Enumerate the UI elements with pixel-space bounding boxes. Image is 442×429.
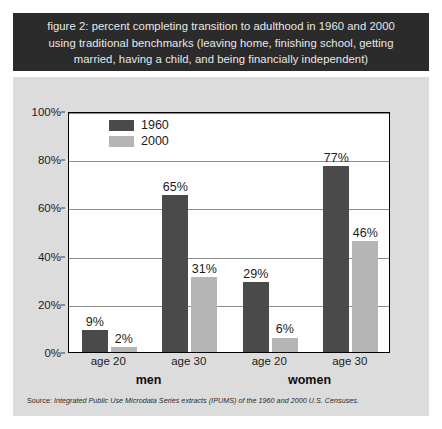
bar-value-label: 9% <box>86 316 104 329</box>
y-axis-tick-mark <box>61 304 65 305</box>
legend-label: 1960 <box>141 119 169 132</box>
source-text: Integrated Public Use Microdata Series e… <box>52 396 359 405</box>
bar-2000-1: 31% <box>191 277 217 352</box>
y-axis-tick-label: 100% <box>32 106 61 118</box>
legend-swatch-icon <box>109 136 134 147</box>
figure-title-banner: figure 2: percent completing transition … <box>13 13 429 71</box>
bar-value-label: 29% <box>243 268 268 281</box>
x-axis: age 20age 30age 20age 30menwomen <box>68 355 390 397</box>
x-axis-tick-label: age 30 <box>332 355 367 367</box>
y-axis-tick-label: 40% <box>38 251 61 263</box>
legend-item-2000[interactable]: 2000 <box>109 135 169 148</box>
y-axis-tick-mark <box>61 208 65 209</box>
gridline <box>69 113 389 114</box>
legend-label: 2000 <box>141 135 169 148</box>
bar-2000-2: 6% <box>272 338 298 352</box>
bar-value-label: 31% <box>192 263 217 276</box>
bar-2000-3: 46% <box>352 241 378 352</box>
figure-title: figure 2: percent completing transition … <box>47 18 395 68</box>
y-axis: 0%20%40%60%80%100% <box>13 112 65 353</box>
source-note: Source: Integrated Public Use Microdata … <box>27 396 359 405</box>
bar-value-label: 65% <box>163 181 188 194</box>
bar-1960-1: 65% <box>162 195 188 352</box>
y-axis-tick-mark <box>61 160 65 161</box>
bar-1960-2: 29% <box>243 282 269 352</box>
source-label: Source: <box>27 396 52 405</box>
legend-item-1960[interactable]: 1960 <box>109 119 169 132</box>
y-axis-tick-mark <box>61 112 65 113</box>
bar-value-label: 6% <box>276 323 294 336</box>
y-axis-tick-label: 20% <box>38 299 61 311</box>
chart-legend: 19602000 <box>109 119 169 148</box>
y-axis-tick-label: 60% <box>38 202 61 214</box>
bar-1960-3: 77% <box>323 166 349 352</box>
x-axis-tick-label: age 20 <box>91 355 126 367</box>
x-axis-tick-label: age 20 <box>252 355 287 367</box>
bar-value-label: 77% <box>324 152 349 165</box>
x-axis-group-label-women: women <box>288 373 331 387</box>
y-axis-tick-mark <box>61 353 65 354</box>
y-axis-tick-label: 80% <box>38 154 61 166</box>
bar-2000-0: 2% <box>111 347 137 352</box>
y-axis-tick-label: 0% <box>44 347 61 359</box>
bar-value-label: 46% <box>353 227 378 240</box>
x-axis-group-label-men: men <box>136 373 162 387</box>
y-axis-tick-mark <box>61 256 65 257</box>
figure-container: figure 2: percent completing transition … <box>0 0 442 429</box>
bar-1960-0: 9% <box>82 330 108 352</box>
plot-area: 19602000 9%2%65%31%29%6%77%46% <box>68 112 390 353</box>
legend-swatch-icon <box>109 120 134 131</box>
bar-value-label: 2% <box>115 333 133 346</box>
x-axis-tick-label: age 30 <box>171 355 206 367</box>
